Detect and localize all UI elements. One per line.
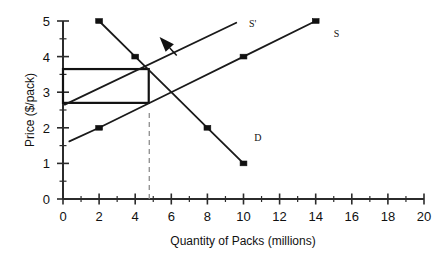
curve-label-S: S	[334, 28, 340, 39]
data-point-marker	[96, 125, 103, 130]
x-tick-label: 20	[417, 209, 431, 224]
data-point-marker	[132, 54, 139, 59]
data-point-marker	[204, 125, 211, 130]
x-axis-title: Quantity of Packs (millions)	[170, 234, 315, 248]
y-tick-label: 3	[43, 85, 50, 100]
x-tick-label: 18	[381, 209, 395, 224]
data-point-marker	[240, 161, 247, 166]
data-point-marker	[240, 54, 247, 59]
data-point-marker	[96, 19, 103, 24]
x-tick-label: 14	[308, 209, 322, 224]
x-tick-label: 2	[95, 209, 102, 224]
chart-background	[0, 0, 439, 266]
y-tick-label: 1	[43, 156, 50, 171]
y-tick-label: 0	[43, 192, 50, 207]
y-tick-label: 4	[43, 50, 50, 65]
x-tick-label: 16	[345, 209, 359, 224]
x-tick-label: 12	[272, 209, 286, 224]
x-tick-label: 0	[59, 209, 66, 224]
y-axis-title: Price ($/pack)	[23, 73, 37, 147]
y-tick-label: 5	[43, 14, 50, 29]
x-tick-label: 4	[132, 209, 139, 224]
x-tick-label: 6	[168, 209, 175, 224]
chart-figure: 012345 02468101214161820 DSS' Quantity o…	[0, 0, 439, 266]
y-tick-label: 2	[43, 121, 50, 136]
curve-label-S-prime: S'	[249, 18, 257, 29]
x-tick-label: 8	[204, 209, 211, 224]
x-tick-label: 10	[236, 209, 250, 224]
supply-demand-chart: 012345 02468101214161820 DSS' Quantity o…	[0, 0, 439, 266]
curve-label-D: D	[254, 132, 261, 143]
data-point-marker	[312, 19, 319, 24]
